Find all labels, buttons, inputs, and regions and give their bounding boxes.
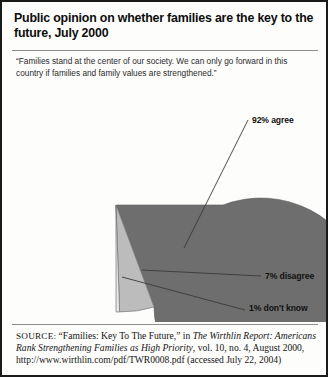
figure-panel: Public opinion on whether families are t… (0, 0, 328, 377)
quote-text: “Families stand at the center of our soc… (16, 56, 314, 79)
figure-inner: Public opinion on whether families are t… (6, 6, 322, 371)
source-label: SOURCE: (16, 331, 56, 341)
source-connector: in (183, 330, 190, 341)
source-divider (12, 324, 318, 325)
pie-label-disagree: 7% disagree (265, 271, 314, 281)
header-divider (12, 50, 318, 51)
page-title: Public opinion on whether families are t… (14, 11, 314, 41)
source-citation: SOURCE: “Families: Key To The Future,” i… (16, 330, 316, 367)
pie-label-agree: 92% agree (252, 115, 294, 125)
pie-chart: 92% agree 7% disagree 1% don't know (6, 84, 326, 322)
source-article-title: “Families: Key To The Future,” (59, 330, 181, 341)
pie-label-dontknow: 1% don't know (249, 303, 308, 313)
